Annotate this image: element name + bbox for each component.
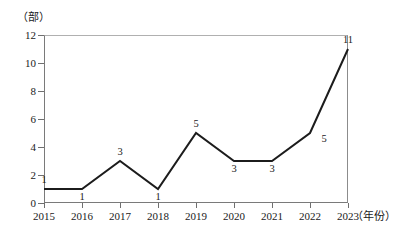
line-chart-figure: （部） （年份） 024681012 201520162017201820192…	[0, 0, 396, 237]
data-point-label: 11	[335, 35, 361, 46]
data-point-label: 5	[183, 119, 209, 130]
data-point-label: 3	[221, 164, 247, 175]
data-point-label: 3	[259, 164, 285, 175]
data-point-label: 1	[145, 192, 171, 203]
data-point-label: 1	[31, 175, 57, 186]
data-point-label: 3	[107, 147, 133, 158]
data-point-label: 1	[69, 192, 95, 203]
data-point-label: 5	[311, 134, 337, 145]
